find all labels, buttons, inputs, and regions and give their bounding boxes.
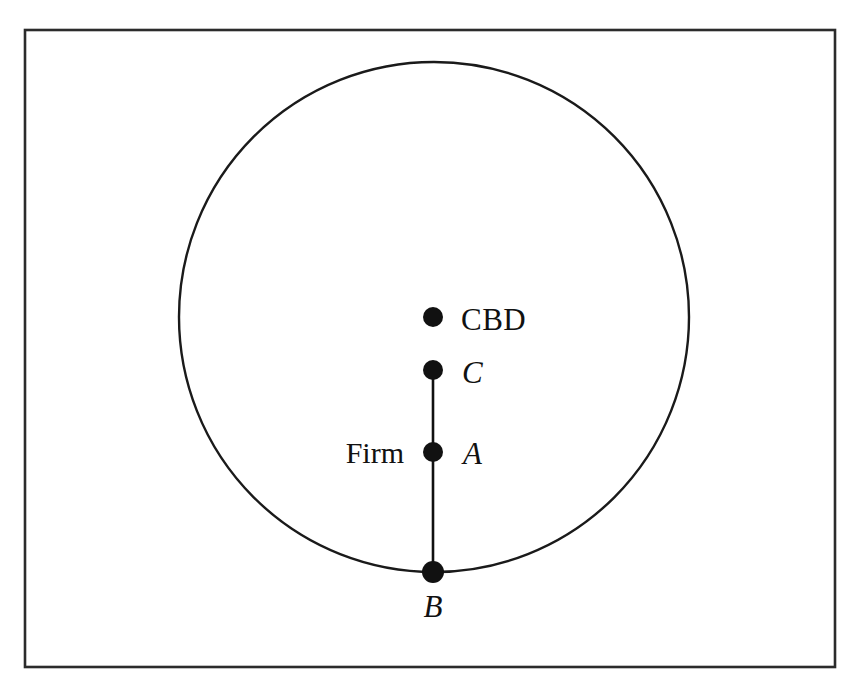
label-cbd: CBD <box>461 304 526 335</box>
label-a: A <box>463 438 482 469</box>
point-marker-cbd <box>423 307 443 327</box>
point-marker-b <box>422 561 444 583</box>
point-marker-a <box>423 442 443 462</box>
label-firm: Firm <box>346 438 404 468</box>
figure-canvas: CBD C Firm A B <box>0 0 857 699</box>
label-b: B <box>424 591 443 622</box>
label-c: C <box>462 357 483 388</box>
point-marker-c <box>423 360 443 380</box>
